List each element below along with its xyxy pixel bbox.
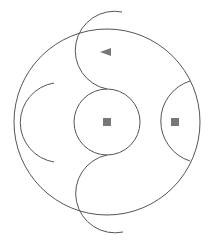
triangle-left-marker-icon (100, 48, 111, 56)
diagram-canvas (0, 0, 208, 245)
top-s-curve-arc (75, 11, 122, 89)
bottom-s-curve-arc (76, 155, 123, 233)
right-square-marker-icon (171, 118, 179, 126)
center-square-marker-icon (103, 118, 111, 126)
left-arc (20, 83, 54, 162)
